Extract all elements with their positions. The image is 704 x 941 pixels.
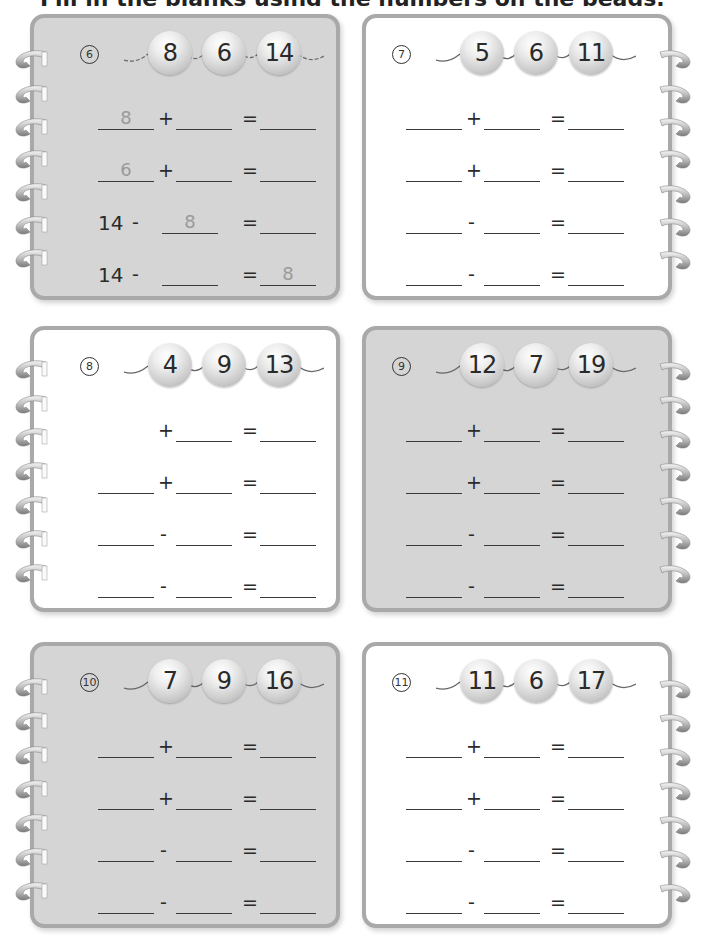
bead: 7 [514, 343, 558, 387]
equals-sign: = [550, 734, 566, 758]
answer-blank[interactable] [98, 735, 154, 758]
minus-sign: - [132, 262, 139, 286]
answer-blank[interactable] [568, 891, 624, 914]
exercise-number: 9 [392, 357, 411, 376]
answer-blank[interactable]: 8 [162, 211, 218, 234]
equation-row: + = [406, 416, 646, 446]
answer-blank[interactable] [568, 107, 624, 130]
answer-blank[interactable] [406, 891, 462, 914]
answer-blank[interactable] [98, 787, 154, 810]
answer-blank[interactable] [260, 787, 316, 810]
answer-blank[interactable] [484, 159, 540, 182]
answer-blank[interactable] [568, 471, 624, 494]
answer-blank[interactable] [406, 523, 462, 546]
answer-blank[interactable] [484, 575, 540, 598]
answer-blank[interactable] [260, 471, 316, 494]
answer-blank[interactable] [260, 107, 316, 130]
answer-blank[interactable] [484, 523, 540, 546]
answer-blank[interactable] [260, 159, 316, 182]
answer-blank[interactable]: 6 [98, 159, 154, 182]
answer-blank[interactable] [406, 419, 462, 442]
answer-blank[interactable] [568, 419, 624, 442]
answer-blank[interactable] [176, 419, 232, 442]
answer-blank[interactable]: 8 [260, 263, 316, 286]
answer-blank[interactable] [260, 523, 316, 546]
equals-sign: = [550, 158, 566, 182]
answer-blank[interactable] [406, 735, 462, 758]
answer-blank[interactable] [406, 211, 462, 234]
answer-blank[interactable] [484, 419, 540, 442]
answer-blank[interactable] [176, 839, 232, 862]
answer-blank[interactable] [98, 419, 154, 442]
answer-blank[interactable] [176, 575, 232, 598]
answer-blank[interactable] [484, 471, 540, 494]
answer-blank[interactable] [406, 107, 462, 130]
answer-blank[interactable] [260, 419, 316, 442]
bead-string: 5 6 11 [436, 30, 636, 76]
answer-blank[interactable] [176, 107, 232, 130]
answer-blank[interactable] [98, 839, 154, 862]
equation-row: - = [98, 836, 338, 866]
equation-row: - = [406, 572, 646, 602]
answer-blank[interactable] [176, 523, 232, 546]
answer-blank[interactable] [176, 735, 232, 758]
answer-blank[interactable] [406, 263, 462, 286]
plus-sign: + [466, 470, 482, 494]
exercise-8-card: 8 4 9 13 + = + = - = - = [30, 326, 340, 612]
answer-blank[interactable] [260, 735, 316, 758]
answer-blank[interactable] [484, 107, 540, 130]
answer-blank[interactable] [406, 471, 462, 494]
bead: 4 [148, 343, 192, 387]
answer-blank[interactable] [484, 263, 540, 286]
equation-row: 8 + = [98, 104, 338, 134]
bead-string: 4 9 13 [124, 342, 324, 388]
answer-blank[interactable] [484, 839, 540, 862]
answer-blank[interactable] [484, 735, 540, 758]
plus-sign: + [158, 106, 174, 130]
equals-sign: = [550, 838, 566, 862]
exercise-6-card: 6 8 6 14 8 + = 6 + = 14 - 8 = 14 - = 8 [30, 14, 340, 300]
answer-blank[interactable] [568, 263, 624, 286]
answer-blank[interactable] [484, 211, 540, 234]
equals-sign: = [242, 262, 258, 286]
equation-row: + = [98, 468, 338, 498]
answer-blank[interactable] [568, 839, 624, 862]
answer-blank[interactable] [406, 159, 462, 182]
answer-blank[interactable]: 8 [98, 107, 154, 130]
answer-blank[interactable] [176, 471, 232, 494]
answer-blank[interactable] [260, 211, 316, 234]
answer-blank[interactable] [176, 787, 232, 810]
answer-blank[interactable] [162, 263, 218, 286]
answer-blank[interactable] [98, 471, 154, 494]
bead: 9 [202, 343, 246, 387]
answer-blank[interactable] [484, 891, 540, 914]
plus-sign: + [158, 470, 174, 494]
equals-sign: = [242, 210, 258, 234]
exercise-number: 6 [80, 45, 99, 64]
answer-blank[interactable] [98, 891, 154, 914]
answer-blank[interactable] [406, 575, 462, 598]
answer-blank[interactable] [568, 211, 624, 234]
equation-row: + = [406, 784, 646, 814]
answer-blank[interactable] [98, 575, 154, 598]
answer-blank[interactable] [406, 787, 462, 810]
answer-blank[interactable] [568, 735, 624, 758]
answer-blank[interactable] [568, 787, 624, 810]
answer-blank[interactable] [260, 839, 316, 862]
answer-blank[interactable] [568, 523, 624, 546]
equals-sign: = [242, 470, 258, 494]
answer-blank[interactable] [176, 159, 232, 182]
bead-string: 7 9 16 [124, 658, 324, 704]
equation-row: - = [406, 836, 646, 866]
equation-row: - = [406, 260, 646, 290]
equals-sign: = [242, 786, 258, 810]
answer-blank[interactable] [260, 575, 316, 598]
answer-blank[interactable] [260, 891, 316, 914]
plus-sign: + [466, 734, 482, 758]
answer-blank[interactable] [484, 787, 540, 810]
answer-blank[interactable] [98, 523, 154, 546]
answer-blank[interactable] [406, 839, 462, 862]
answer-blank[interactable] [568, 575, 624, 598]
answer-blank[interactable] [176, 891, 232, 914]
answer-blank[interactable] [568, 159, 624, 182]
